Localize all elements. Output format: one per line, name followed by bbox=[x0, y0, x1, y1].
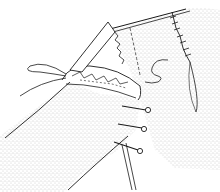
fabric-panel-front bbox=[0, 82, 140, 192]
illustration bbox=[0, 0, 220, 192]
